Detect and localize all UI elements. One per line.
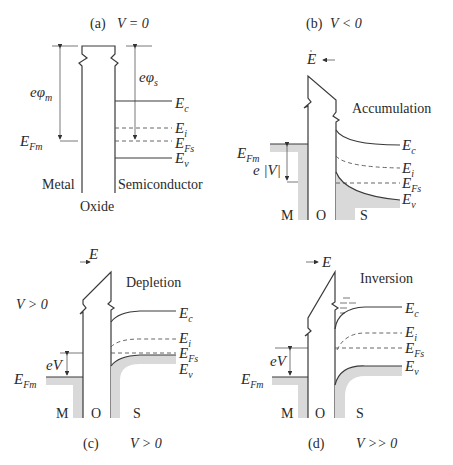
oxide-label: Oxide bbox=[80, 199, 114, 214]
o-label: O bbox=[316, 208, 326, 223]
m-label: M bbox=[281, 208, 294, 223]
efm-label: EFm bbox=[240, 371, 264, 390]
intrinsic-level bbox=[337, 333, 402, 350]
s-label: S bbox=[133, 406, 141, 421]
ec-label: Ec bbox=[174, 95, 189, 114]
semiconductor-filled-states bbox=[336, 172, 400, 220]
panel-c-condition: V > 0 bbox=[130, 436, 162, 451]
oxide-barrier bbox=[80, 272, 114, 418]
eV-label: eV bbox=[270, 353, 288, 369]
panel-d-caption: (d) bbox=[308, 436, 325, 452]
regime-label: Depletion bbox=[126, 275, 181, 290]
side-condition: V > 0 bbox=[16, 297, 48, 312]
semiconductor-filled-states bbox=[335, 366, 402, 418]
ec-label: Ec bbox=[178, 305, 193, 324]
ephi-s-label: eφs bbox=[139, 69, 158, 88]
metal-label: Metal bbox=[42, 177, 75, 192]
mos-band-diagram: (a) V = 0 eφm EFm eφs Ec Ei EFs Ev Metal… bbox=[0, 0, 453, 465]
panel-b-condition: V < 0 bbox=[330, 16, 362, 31]
eV-label: eV bbox=[46, 357, 64, 373]
ephi-m-label: eφm bbox=[30, 84, 52, 103]
m-label: M bbox=[281, 406, 294, 421]
conduction-band bbox=[111, 311, 176, 322]
panel-b: (b) V < 0 E EFm e |V| Accumulation Ec Ei… bbox=[236, 16, 431, 223]
efm-label: EFm bbox=[19, 133, 43, 152]
semiconductor-label: Semiconductor bbox=[118, 177, 203, 192]
panel-c-caption: (c) bbox=[83, 436, 99, 452]
conduction-band bbox=[335, 307, 402, 329]
intrinsic-level bbox=[336, 156, 400, 168]
o-label: O bbox=[91, 406, 101, 421]
panel-a-condition: V = 0 bbox=[117, 16, 149, 31]
ec-label: Ec bbox=[401, 137, 416, 156]
ec-label: Ec bbox=[404, 300, 419, 319]
efs-label: EFs bbox=[404, 340, 424, 359]
regime-label: Accumulation bbox=[352, 101, 431, 116]
regime-label: Inversion bbox=[360, 271, 413, 286]
panel-d-condition: V >> 0 bbox=[356, 436, 397, 451]
efm-label: EFm bbox=[13, 371, 37, 390]
conduction-band bbox=[336, 130, 400, 145]
panel-c: E V > 0 eV EFm Depletion Ec Ei EFs Ev M … bbox=[13, 246, 198, 452]
field-label: E bbox=[306, 51, 316, 67]
panel-a-caption: (a) bbox=[90, 16, 106, 32]
intrinsic-level bbox=[111, 339, 176, 347]
oxide-barrier bbox=[304, 76, 339, 220]
eV-label: e |V| bbox=[253, 162, 281, 178]
panel-b-caption: (b) bbox=[306, 16, 323, 32]
oxide-barrier bbox=[79, 46, 118, 193]
oxide-barrier bbox=[305, 272, 338, 418]
field-label: E bbox=[321, 254, 331, 270]
panel-d: E eV EFm Inversion Ec Ei EFs Ev M O bbox=[240, 254, 424, 452]
o-label: O bbox=[315, 406, 325, 421]
panel-a: (a) V = 0 eφm EFm eφs Ec Ei EFs Ev Metal… bbox=[19, 16, 203, 214]
semiconductor-filled-states bbox=[111, 355, 176, 418]
m-label: M bbox=[56, 406, 69, 421]
s-label: S bbox=[360, 208, 368, 223]
s-label: S bbox=[356, 406, 364, 421]
ev-label: Ev bbox=[404, 358, 419, 377]
field-label: E bbox=[88, 246, 98, 262]
